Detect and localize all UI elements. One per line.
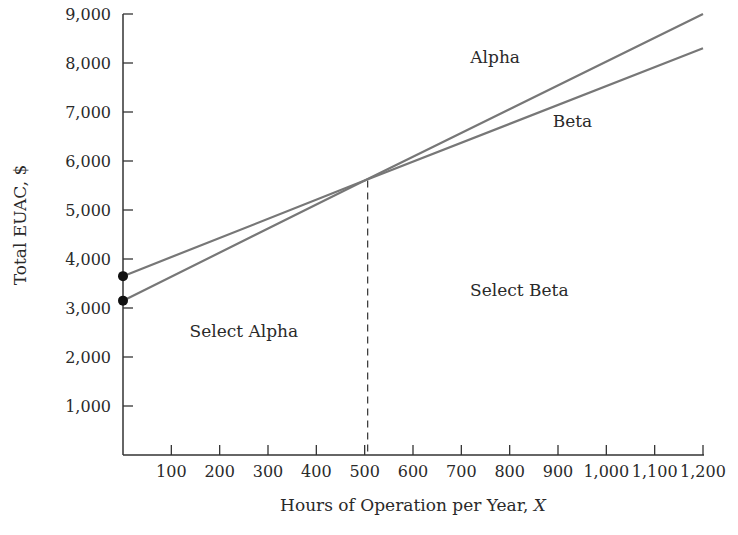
euac-breakeven-chart: 1,0002,0003,0004,0005,0006,0007,0008,000…	[0, 0, 738, 535]
y-axis-title: Total EUAC, $	[10, 165, 30, 286]
x-tick-label: 200	[204, 462, 235, 481]
y-tick-label: 6,000	[65, 152, 111, 171]
x-tick-label: 400	[301, 462, 332, 481]
y-tick-label: 3,000	[65, 299, 111, 318]
y-tick-label: 9,000	[65, 5, 111, 24]
x-tick-label: 100	[156, 462, 187, 481]
y-tick-label: 2,000	[65, 348, 111, 367]
series-line-beta	[123, 48, 703, 276]
annotation-beta: Beta	[553, 111, 593, 131]
x-tick-label: 500	[349, 462, 380, 481]
y-tick-label: 7,000	[65, 103, 111, 122]
x-tick-label: 300	[253, 462, 284, 481]
annotation-select-beta: Select Beta	[470, 280, 568, 300]
y-tick-label: 5,000	[65, 201, 111, 220]
x-axis-ticks: 1002003004005006007008009001,0001,1001,2…	[156, 445, 726, 481]
x-axis-title: Hours of Operation per Year, X	[280, 495, 547, 515]
x-tick-label: 1,200	[680, 462, 726, 481]
y-tick-label: 8,000	[65, 54, 111, 73]
annotation-alpha: Alpha	[469, 47, 520, 67]
y-tick-label: 4,000	[65, 250, 111, 269]
x-tick-label: 1,000	[583, 462, 629, 481]
annotation-select-alpha: Select Alpha	[190, 321, 299, 341]
series-lines	[118, 14, 703, 306]
y-tick-label: 1,000	[65, 397, 111, 416]
start-point-marker-alpha	[118, 296, 128, 306]
x-tick-label: 800	[494, 462, 525, 481]
x-tick-label: 1,100	[632, 462, 678, 481]
x-tick-label: 600	[398, 462, 429, 481]
annotations: AlphaBetaSelect AlphaSelect Beta	[190, 47, 593, 341]
start-point-marker-beta	[118, 271, 128, 281]
x-tick-label: 700	[446, 462, 477, 481]
x-tick-label: 900	[543, 462, 574, 481]
series-line-alpha	[123, 14, 703, 301]
